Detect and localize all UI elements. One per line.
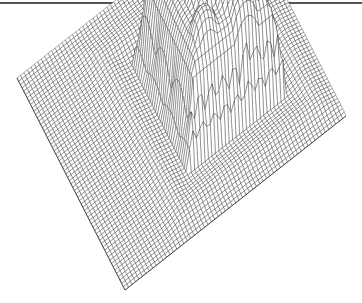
figure-frame [0,0,362,303]
surface-wireframe-plot [0,0,362,303]
mesh-lines [17,0,346,290]
